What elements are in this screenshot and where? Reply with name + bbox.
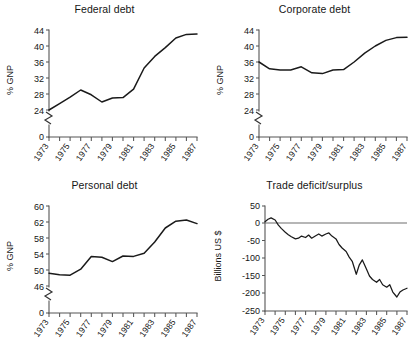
corporate-ytick-32: 32: [244, 74, 254, 84]
corporate-xtick-1983: 1983: [347, 141, 366, 163]
trade-deficit-dataline: [265, 218, 407, 297]
corporate-debt-dataline: [259, 37, 407, 73]
federal-ytick-28: 28: [34, 90, 44, 100]
corporate-ytick-0: 0: [249, 132, 254, 142]
chart-panel-corporate-debt: Corporate debt % GNP 44 40 36 32 28 24 0: [210, 0, 419, 175]
corporate-ytick-24: 24: [244, 106, 254, 116]
federal-ytick-32: 32: [34, 74, 44, 84]
personal-xtick-1983: 1983: [137, 317, 156, 339]
personal-xtick-1985: 1985: [158, 317, 177, 339]
federal-xtick-1987: 1987: [179, 141, 198, 163]
federal-xtick-1979: 1979: [95, 141, 114, 163]
corporate-ytick-36: 36: [244, 58, 254, 68]
corporate-ytick-40: 40: [244, 42, 254, 52]
trade-xtick-1985: 1985: [369, 315, 388, 337]
corporate-xtick-1987: 1987: [389, 141, 408, 163]
federal-ytick-24: 24: [34, 106, 44, 116]
federal-ytick-36: 36: [34, 58, 44, 68]
corporate-xtick-1975: 1975: [263, 141, 282, 163]
personal-y-axis-title: % GNP: [5, 241, 15, 271]
chart-panel-personal-debt: Personal debt % GNP 60 62 58 54 50 46 0: [0, 176, 209, 351]
personal-ytick-0: 0: [39, 308, 44, 318]
trade-xtick-1975: 1975: [268, 315, 287, 337]
federal-debt-plot: % GNP 44 40 36 32 28 24 0: [0, 0, 209, 175]
federal-y-axis-title: % GNP: [5, 65, 15, 95]
corporate-xtick-1977: 1977: [284, 141, 303, 163]
trade-xtick-1977: 1977: [288, 315, 307, 337]
personal-xtick-1975: 1975: [53, 317, 72, 339]
personal-xtick-1977: 1977: [74, 317, 93, 339]
corporate-ytick-28: 28: [244, 90, 254, 100]
trade-y-axis-title: Billions US $: [213, 230, 223, 281]
federal-xtick-1981: 1981: [116, 141, 135, 163]
federal-xtick-1977: 1977: [74, 141, 93, 163]
chart-panel-federal-debt: Federal debt % GNP 44 40 36 32 28 24 0: [0, 0, 209, 175]
trade-ytick-m200: -200: [242, 288, 260, 298]
personal-xtick-1981: 1981: [116, 317, 135, 339]
corporate-xtick-1979: 1979: [305, 141, 324, 163]
federal-xtick-1985: 1985: [158, 141, 177, 163]
corporate-xtick-1985: 1985: [368, 141, 387, 163]
personal-ytick-54: 54: [34, 250, 44, 260]
trade-ytick-0: 0: [255, 218, 260, 228]
personal-xtick-1973: 1973: [31, 317, 50, 339]
trade-ytick-m50: -50: [247, 236, 260, 246]
personal-ytick-top: 60: [34, 202, 44, 212]
federal-ytick-40: 40: [34, 42, 44, 52]
trade-xtick-1987: 1987: [389, 315, 408, 337]
personal-xtick-1979: 1979: [95, 317, 114, 339]
personal-debt-dataline: [49, 220, 197, 275]
trade-ytick-m150: -150: [242, 271, 260, 281]
federal-xtick-1983: 1983: [137, 141, 156, 163]
trade-xtick-1973: 1973: [247, 315, 266, 337]
personal-debt-plot: % GNP 60 62 58 54 50 46 0: [0, 176, 209, 351]
debt-charts-figure: Federal debt % GNP 44 40 36 32 28 24 0: [0, 0, 419, 351]
trade-ytick-m100: -100: [242, 253, 260, 263]
trade-deficit-plot: Billions US $ 50 0 -50 -100 -150 -200 -2…: [210, 176, 419, 351]
personal-ytick-46: 46: [34, 282, 44, 292]
personal-ytick-62: 62: [34, 218, 44, 228]
personal-ytick-50: 50: [34, 266, 44, 276]
trade-xtick-1983: 1983: [349, 315, 368, 337]
federal-xtick-1975: 1975: [53, 141, 72, 163]
trade-xtick-1981: 1981: [329, 315, 348, 337]
federal-ytick-0: 0: [39, 132, 44, 142]
corporate-debt-plot: % GNP 44 40 36 32 28 24 0: [210, 0, 419, 175]
federal-debt-dataline: [49, 34, 197, 110]
corporate-xtick-1973: 1973: [241, 141, 260, 163]
trade-ytick-m250: -250: [242, 306, 260, 316]
chart-panel-trade-deficit: Trade deficit/surplus Billions US $ 50 0…: [210, 176, 419, 351]
trade-ytick-50: 50: [250, 201, 260, 211]
federal-ytick-44: 44: [34, 26, 44, 36]
corporate-ytick-44: 44: [244, 26, 254, 36]
personal-ytick-58: 58: [34, 234, 44, 244]
personal-xtick-1987: 1987: [179, 317, 198, 339]
corporate-y-axis-title: % GNP: [215, 65, 225, 95]
federal-xtick-1973: 1973: [31, 141, 50, 163]
trade-xtick-1979: 1979: [308, 315, 327, 337]
corporate-xtick-1981: 1981: [326, 141, 345, 163]
